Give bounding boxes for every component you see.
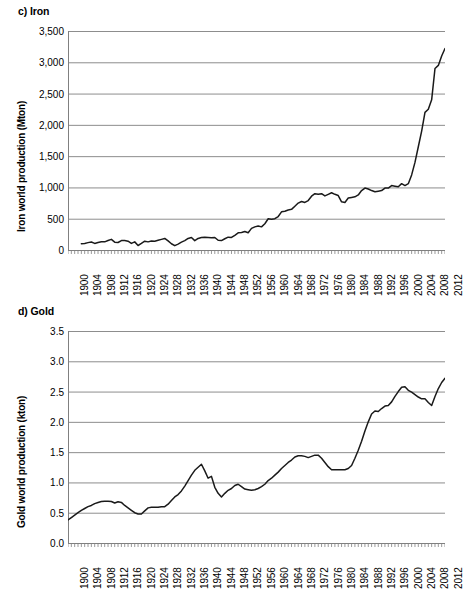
chart-panel-iron: c) Iron Iron world production (Mton) 050… [0, 0, 458, 300]
x-tick-label: 1904 [92, 557, 103, 578]
x-tick-label: 1960 [279, 557, 290, 578]
x-tick-label: 1908 [105, 264, 116, 285]
chart-title-gold: d) Gold [18, 305, 54, 317]
x-tick-label: 2008 [439, 557, 450, 578]
x-tick-label: 1940 [212, 557, 223, 578]
x-axis-ticks-iron: 1900190419081912191619201924192819321936… [68, 253, 445, 299]
x-tick-label: 2012 [452, 264, 463, 285]
plot-area-iron [68, 31, 445, 250]
x-tick-label: 1992 [386, 264, 397, 285]
data-series-line [81, 49, 445, 246]
x-tick-label: 1932 [185, 557, 196, 578]
x-tick-label: 1928 [172, 264, 183, 285]
x-tick-label: 1976 [332, 264, 343, 285]
y-tick-label: 3.5 [50, 326, 68, 337]
x-tick-label: 1904 [92, 264, 103, 285]
x-tick-label: 1956 [266, 557, 277, 578]
x-tick-label: 1944 [226, 264, 237, 285]
x-tick-label: 1932 [185, 264, 196, 285]
x-tick-label: 1916 [132, 557, 143, 578]
x-tick-label: 1912 [119, 264, 130, 285]
y-tick-label: 0.0 [50, 538, 68, 549]
y-axis-ticks-iron: 05001,0001,5002,0002,5003,0003,500 [0, 31, 68, 250]
x-tick-label: 2008 [439, 264, 450, 285]
x-tick-label: 1980 [346, 264, 357, 285]
x-tick-label: 1924 [159, 264, 170, 285]
y-tick-label: 500 [47, 213, 68, 224]
y-tick-label: 3.0 [50, 356, 68, 367]
x-tick-label: 1988 [372, 264, 383, 285]
y-tick-label: 2.5 [50, 386, 68, 397]
x-tick-label: 1924 [159, 557, 170, 578]
y-tick-label: 2,500 [39, 88, 68, 99]
y-tick-label: 0 [58, 245, 68, 256]
x-tick-label: 1980 [346, 557, 357, 578]
y-tick-label: 3,000 [39, 57, 68, 68]
x-tick-label: 1920 [145, 264, 156, 285]
x-tick-label: 2004 [426, 264, 437, 285]
y-tick-label: 1,000 [39, 182, 68, 193]
chart-title-iron: c) Iron [18, 5, 49, 17]
y-tick-label: 2,000 [39, 119, 68, 130]
y-tick-label: 1.0 [50, 477, 68, 488]
x-tick-label: 1920 [145, 557, 156, 578]
x-tick-label: 2004 [426, 557, 437, 578]
x-tick-label: 1960 [279, 264, 290, 285]
chart-svg [68, 331, 445, 548]
x-tick-label: 1900 [79, 264, 90, 285]
x-tick-label: 1984 [359, 264, 370, 285]
x-tick-label: 1900 [79, 557, 90, 578]
x-tick-label: 1996 [399, 264, 410, 285]
x-tick-label: 2012 [452, 557, 463, 578]
x-tick-label: 1984 [359, 557, 370, 578]
x-tick-label: 1976 [332, 557, 343, 578]
x-tick-label: 1988 [372, 557, 383, 578]
y-tick-label: 1,500 [39, 151, 68, 162]
x-tick-label: 1936 [199, 264, 210, 285]
x-tick-label: 2000 [412, 264, 423, 285]
chart-panel-gold: d) Gold Gold world production (kton) 0.0… [0, 300, 458, 597]
x-tick-label: 1956 [266, 264, 277, 285]
x-tick-label: 1908 [105, 557, 116, 578]
x-tick-label: 1972 [319, 557, 330, 578]
y-tick-label: 0.5 [50, 507, 68, 518]
y-tick-label: 2.0 [50, 416, 68, 427]
x-tick-label: 1964 [292, 264, 303, 285]
x-tick-label: 1952 [252, 557, 263, 578]
x-tick-label: 1936 [199, 557, 210, 578]
x-tick-label: 1948 [239, 557, 250, 578]
x-tick-label: 1968 [306, 264, 317, 285]
data-series-line [68, 378, 445, 520]
plot-area-gold [68, 331, 445, 543]
chart-svg [68, 31, 445, 255]
x-tick-label: 1972 [319, 264, 330, 285]
x-tick-label: 1940 [212, 264, 223, 285]
x-tick-label: 1964 [292, 557, 303, 578]
x-tick-label: 1952 [252, 264, 263, 285]
x-tick-label: 1912 [119, 557, 130, 578]
y-tick-label: 3,500 [39, 26, 68, 37]
x-tick-label: 2000 [412, 557, 423, 578]
x-tick-label: 1944 [226, 557, 237, 578]
x-tick-label: 1916 [132, 264, 143, 285]
x-tick-label: 1968 [306, 557, 317, 578]
x-tick-label: 1996 [399, 557, 410, 578]
y-axis-ticks-gold: 0.00.51.01.52.02.53.03.5 [0, 331, 68, 543]
y-tick-label: 1.5 [50, 447, 68, 458]
x-tick-label: 1992 [386, 557, 397, 578]
x-axis-ticks-gold: 1900190419081912191619201924192819321936… [68, 546, 445, 594]
x-tick-label: 1948 [239, 264, 250, 285]
x-tick-label: 1928 [172, 557, 183, 578]
